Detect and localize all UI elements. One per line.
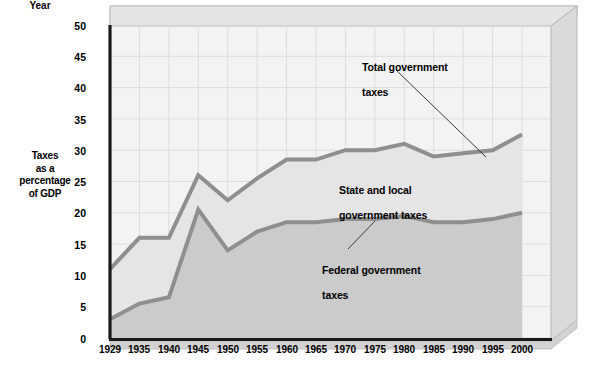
y-axis-title-line-3: percentage: [4, 175, 86, 188]
annotation-state-line-1: State and local: [339, 184, 427, 197]
chart-canvas: [0, 0, 592, 391]
x-tick-1945: 1945: [181, 345, 215, 355]
y-tick-0: 0: [64, 334, 86, 344]
x-tick-1970: 1970: [328, 345, 362, 355]
annotation-total-line-1: Total government: [362, 61, 448, 74]
y-tick-50: 50: [64, 21, 86, 31]
y-tick-45: 45: [64, 52, 86, 62]
y-tick-5: 5: [64, 302, 86, 312]
annotation-state-line-2: government taxes: [339, 209, 427, 222]
x-tick-2000: 2000: [505, 345, 539, 355]
x-tick-1980: 1980: [387, 345, 421, 355]
frame-right-face: [551, 6, 577, 341]
y-tick-20: 20: [64, 208, 86, 218]
annotation-federal-line-1: Federal government: [322, 264, 421, 277]
annotation-total-line-2: taxes: [362, 86, 448, 99]
y-axis-title-line-4: of GDP: [4, 188, 86, 201]
annotation-federal-government-taxes: Federal government taxes: [322, 251, 421, 314]
x-tick-1955: 1955: [240, 345, 274, 355]
y-tick-15: 15: [64, 240, 86, 250]
y-axis-title: Taxes as a percentage of GDP: [4, 150, 86, 200]
y-tick-40: 40: [64, 83, 86, 93]
annotation-federal-line-2: taxes: [322, 289, 421, 302]
y-axis-title-line-2: as a: [4, 163, 86, 176]
x-tick-1935: 1935: [122, 345, 156, 355]
tax-chart: 50 45 40 35 30 25 20 15 10 5 0 1929 1935…: [0, 0, 592, 391]
annotation-state-and-local-government-taxes: State and local government taxes: [339, 171, 427, 234]
y-tick-35: 35: [64, 115, 86, 125]
frame-top-bevel: [110, 6, 577, 26]
x-tick-1990: 1990: [446, 345, 480, 355]
y-tick-10: 10: [64, 271, 86, 281]
y-axis-title-line-1: Taxes: [4, 150, 86, 163]
annotation-total-government-taxes: Total government taxes: [362, 48, 448, 111]
